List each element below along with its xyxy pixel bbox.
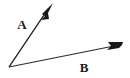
ray-b-label: B: [80, 60, 89, 75]
ray-a-shaft-alias: [9, 9, 48, 67]
angle-figure-svg: A B: [0, 0, 130, 78]
ray-b-arrowhead: [107, 42, 123, 50]
ray-b-shaft: [9, 46, 114, 67]
angle-diagram: A B: [0, 0, 130, 78]
ray-a-label: A: [17, 17, 27, 32]
